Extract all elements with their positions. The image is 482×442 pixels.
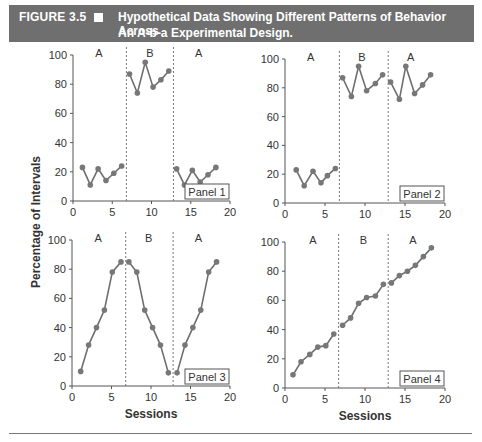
- phase-label: A: [409, 234, 417, 246]
- x-tick-label: 0: [282, 208, 288, 220]
- data-line: [391, 248, 431, 283]
- x-tick-label: 20: [224, 206, 236, 218]
- y-tick-label: 80: [267, 82, 279, 94]
- y-tick-label: 60: [54, 292, 66, 304]
- data-point: [340, 75, 346, 81]
- data-point: [94, 325, 100, 331]
- data-line: [130, 62, 169, 93]
- data-point: [318, 180, 324, 186]
- data-point: [307, 352, 313, 358]
- y-tick-label: 20: [267, 353, 279, 365]
- data-point: [166, 68, 172, 74]
- data-point: [102, 307, 108, 313]
- data-point: [86, 342, 92, 348]
- data-point: [103, 178, 109, 184]
- x-tick-label: 0: [282, 393, 288, 405]
- y-tick-label: 40: [267, 139, 279, 151]
- y-tick-label: 0: [273, 197, 279, 209]
- data-point: [134, 269, 140, 275]
- phase-label: B: [360, 234, 367, 246]
- x-tick-label: 10: [359, 393, 371, 405]
- y-tick-label: 60: [267, 294, 279, 306]
- x-tick-label: 5: [108, 391, 114, 403]
- data-point: [301, 183, 307, 189]
- x-tick-label: 15: [399, 393, 411, 405]
- data-point: [150, 84, 156, 90]
- data-point: [364, 295, 370, 301]
- panel-label: Panel 3: [188, 371, 225, 383]
- chart-area: 02040608010005101520ABAPanel 10204060801…: [0, 0, 482, 442]
- phase-label: B: [358, 51, 365, 63]
- x-tick-label: 5: [109, 206, 115, 218]
- data-point: [380, 72, 386, 78]
- y-tick-label: 20: [54, 351, 66, 363]
- phase-label: B: [146, 47, 153, 59]
- y-tick-label: 100: [48, 234, 66, 246]
- data-point: [421, 254, 427, 260]
- phase-label: A: [195, 47, 203, 59]
- data-point: [429, 245, 435, 251]
- x-tick-label: 10: [145, 391, 157, 403]
- data-point: [158, 77, 164, 83]
- data-point: [356, 301, 362, 307]
- x-tick-label: 15: [399, 208, 411, 220]
- data-point: [190, 325, 196, 331]
- data-point: [95, 166, 101, 172]
- x-tick-label: 0: [69, 391, 75, 403]
- data-point: [142, 307, 148, 313]
- phase-label: A: [307, 51, 315, 63]
- y-tick-label: 100: [261, 236, 279, 248]
- data-point: [323, 343, 329, 349]
- data-point: [373, 293, 379, 299]
- data-point: [364, 88, 370, 94]
- x-tick-label: 5: [322, 208, 328, 220]
- y-tick-label: 20: [267, 168, 279, 180]
- bottom-divider: [9, 433, 472, 434]
- data-point: [111, 170, 117, 176]
- data-point: [166, 370, 172, 376]
- x-tick-label: 10: [359, 208, 371, 220]
- panel-4: 02040608010005101520ABAPanel 4Sessions: [261, 234, 451, 423]
- data-point: [198, 307, 204, 313]
- data-point: [389, 280, 395, 286]
- panel-1: 02040608010005101520ABAPanel 1: [49, 47, 236, 218]
- data-line: [177, 262, 217, 373]
- data-point: [127, 71, 133, 77]
- data-point: [126, 259, 132, 265]
- data-point: [388, 79, 394, 85]
- y-tick-label: 80: [267, 265, 279, 277]
- phase-label: A: [195, 232, 203, 244]
- data-point: [403, 63, 409, 69]
- data-line: [81, 262, 121, 372]
- phase-label: A: [95, 47, 103, 59]
- data-point: [298, 359, 304, 365]
- data-point: [413, 263, 419, 269]
- data-point: [349, 94, 355, 100]
- y-tick-label: 0: [60, 380, 66, 392]
- data-point: [333, 166, 339, 172]
- panel-3: 02040608010005101520ABAPanel 3Sessions: [48, 232, 236, 421]
- data-line: [129, 262, 169, 373]
- y-axis-label: Percentage of Intervals: [29, 156, 43, 288]
- data-point: [213, 165, 219, 171]
- data-point: [118, 259, 124, 265]
- y-tick-label: 100: [49, 49, 67, 61]
- y-tick-label: 60: [267, 111, 279, 123]
- data-point: [205, 172, 211, 178]
- data-point: [174, 370, 180, 376]
- panel-2: 02040608010005101520ABAPanel 2: [261, 51, 451, 220]
- data-line: [391, 66, 431, 99]
- data-point: [174, 166, 180, 172]
- x-axis-label: Sessions: [125, 407, 178, 421]
- x-tick-label: 15: [184, 391, 196, 403]
- y-tick-label: 40: [54, 322, 66, 334]
- data-point: [405, 268, 411, 274]
- data-point: [119, 163, 125, 169]
- data-point: [310, 169, 316, 175]
- data-point: [348, 315, 354, 321]
- x-axis-label: Sessions: [339, 409, 392, 423]
- data-point: [158, 342, 164, 348]
- panel-label: Panel 1: [188, 186, 225, 198]
- y-tick-label: 40: [267, 324, 279, 336]
- x-tick-label: 20: [224, 391, 236, 403]
